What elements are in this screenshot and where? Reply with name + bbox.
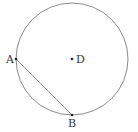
point-d: [71, 58, 74, 61]
point-a: [15, 58, 18, 61]
label-d: D: [76, 53, 85, 66]
point-b: [71, 114, 74, 117]
label-b: B: [68, 117, 76, 130]
chord-ab: [16, 59, 72, 115]
label-a: A: [5, 53, 15, 66]
geometry-diagram: A B D: [0, 0, 138, 132]
